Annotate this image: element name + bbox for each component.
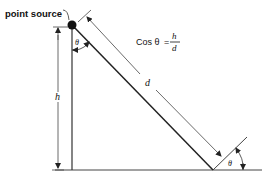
- distance-dimension-line-lower: [156, 90, 221, 156]
- formula-equals: =: [164, 37, 169, 47]
- point-source-leader: [63, 10, 69, 20]
- distance-extension-top: [78, 10, 91, 22]
- distance-dimension-line-upper: [87, 17, 140, 74]
- distance-label: d: [145, 77, 151, 88]
- angle-top-label: θ: [75, 38, 79, 47]
- angle-arc-bottom: [236, 149, 243, 170]
- angle-arc-top-arrow-right: [85, 42, 89, 46]
- height-label: h: [55, 91, 60, 102]
- formula-denominator: d: [172, 43, 177, 53]
- formula-lhs: Cos θ: [136, 37, 160, 47]
- angle-bottom-label: θ: [228, 159, 232, 168]
- point-source-label: point source: [5, 8, 62, 19]
- point-source-dot: [68, 21, 77, 30]
- angle-arc-bottom-arrow-top: [236, 148, 239, 153]
- cosine-law-diagram: point source Cos θ = h d h d θ θ: [0, 0, 263, 184]
- formula-numerator: h: [172, 31, 177, 41]
